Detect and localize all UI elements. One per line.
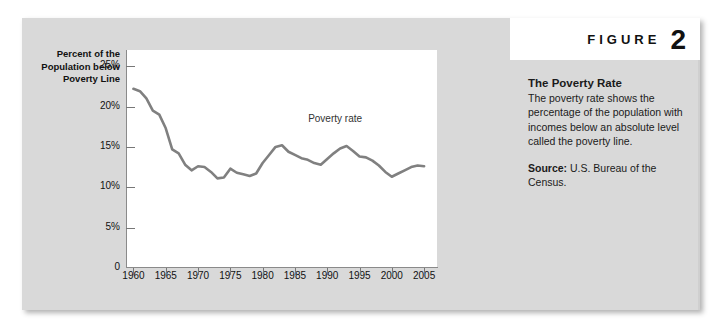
x-tick-mark — [327, 268, 328, 275]
x-tick-mark — [424, 268, 425, 275]
caption-block: The Poverty Rate The poverty rate shows … — [528, 76, 688, 190]
figure-header: FIGURE 2 — [510, 18, 700, 60]
x-tick-mark — [295, 268, 296, 275]
y-tick-label: 25% — [58, 59, 120, 70]
caption-source: Source: U.S. Bureau of the Census. — [528, 161, 688, 190]
x-tick-mark — [198, 268, 199, 275]
y-axis-line — [126, 50, 127, 268]
plot-area — [127, 50, 437, 268]
caption-title: The Poverty Rate — [528, 76, 688, 91]
y-tick-mark — [126, 228, 135, 229]
y-tick-label: 20% — [58, 100, 120, 111]
caption-body: The poverty rate shows the percentage of… — [528, 91, 688, 149]
figure-label: FIGURE — [587, 32, 660, 47]
y-tick-mark — [126, 66, 135, 67]
figure-number: 2 — [670, 26, 686, 54]
caption-divider — [698, 60, 700, 310]
y-tick-label: 10% — [58, 180, 120, 191]
y-tick-label: 15% — [58, 140, 120, 151]
y-tick-label: 0 — [58, 261, 120, 272]
series-annotation: Poverty rate — [308, 113, 362, 124]
y-tick-mark — [126, 107, 135, 108]
x-tick-mark — [230, 268, 231, 275]
source-label: Source: — [528, 162, 567, 174]
y-tick-label: 5% — [58, 221, 120, 232]
x-tick-mark — [360, 268, 361, 275]
y-tick-mark — [126, 147, 135, 148]
y-tick-mark — [126, 187, 135, 188]
x-tick-mark — [263, 268, 264, 275]
x-tick-mark — [133, 268, 134, 275]
x-tick-mark — [392, 268, 393, 275]
figure-panel: FIGURE 2 Percent of the Population below… — [22, 18, 700, 310]
x-tick-mark — [166, 268, 167, 275]
